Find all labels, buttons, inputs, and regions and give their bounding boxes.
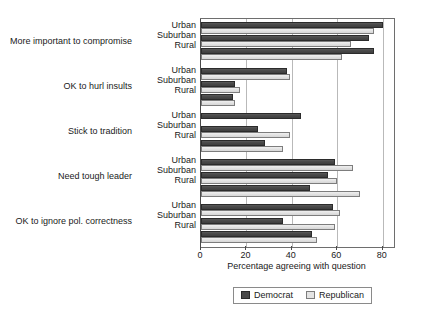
bar-fill	[201, 178, 337, 184]
legend-item-democrat: Democrat	[241, 290, 293, 300]
bar-fill	[201, 28, 374, 34]
bar-republican-more-important-to-compromise-urban	[201, 28, 394, 34]
tick-label-60: 60	[331, 250, 341, 260]
subcategory-label-urban: Urban	[134, 111, 196, 120]
bar-republican-ok-to-hurl-insults-urban	[201, 74, 394, 80]
bar-republican-ok-to-hurl-insults-suburban	[201, 87, 394, 93]
bar-fill	[201, 113, 301, 119]
bar-republican-stick-to-tradition-rural	[201, 146, 394, 152]
group-label-need-tough-leader: Need tough leader	[0, 171, 132, 181]
plot-area	[200, 18, 395, 248]
subcategory-label-urban: Urban	[134, 156, 196, 165]
legend-label-republican: Republican	[319, 290, 364, 300]
group-label-more-important-to-compromise: More important to compromise	[0, 36, 132, 46]
bar-republican-need-tough-leader-suburban	[201, 178, 394, 184]
subcategory-label-suburban: Suburban	[134, 31, 196, 40]
subcategory-label-suburban: Suburban	[134, 211, 196, 220]
bar-fill	[201, 146, 283, 152]
bar-fill	[201, 165, 353, 171]
bar-fill	[201, 210, 340, 216]
subcategory-label-rural: Rural	[134, 86, 196, 95]
bar-republican-stick-to-tradition-suburban	[201, 132, 394, 138]
bar-chart: More important to compromise OK to hurl …	[0, 0, 422, 319]
tick-label-80: 80	[377, 250, 387, 260]
group-label-ok-to-hurl-insults: OK to hurl insults	[0, 81, 132, 91]
group-label-stick-to-tradition: Stick to tradition	[0, 126, 132, 136]
x-axis-title: Percentage agreeing with question	[200, 261, 393, 271]
tick-label-0: 0	[197, 250, 202, 260]
group-label-column: More important to compromise OK to hurl …	[0, 18, 132, 246]
subcategory-label-rural: Rural	[134, 41, 196, 50]
legend-swatch-democrat	[241, 291, 250, 299]
legend-label-democrat: Democrat	[254, 290, 293, 300]
subcategory-label-column: Urban Suburban Rural Urban Suburban Rura…	[134, 18, 196, 246]
x-axis-ticks: 020406080	[200, 246, 393, 262]
subcategory-label-rural: Rural	[134, 176, 196, 185]
subcategory-label-rural: Rural	[134, 131, 196, 140]
bar-republican-ok-to-ignore-pol-correctness-rural	[201, 237, 394, 243]
subcategory-label-urban: Urban	[134, 66, 196, 75]
bar-republican-more-important-to-compromise-suburban	[201, 41, 394, 47]
bar-republican-need-tough-leader-rural	[201, 191, 394, 197]
bar-fill	[201, 41, 351, 47]
legend-item-republican: Republican	[306, 290, 364, 300]
subcategory-label-rural: Rural	[134, 221, 196, 230]
bar-fill	[201, 132, 290, 138]
bar-republican-ok-to-ignore-pol-correctness-urban	[201, 210, 394, 216]
group-label-ok-to-ignore-pol-correctness: OK to ignore pol. correctness	[0, 216, 132, 226]
bar-fill	[201, 191, 360, 197]
bar-fill	[201, 237, 317, 243]
bar-fill	[201, 224, 335, 230]
subcategory-label-urban: Urban	[134, 21, 196, 30]
bar-republican-ok-to-hurl-insults-rural	[201, 100, 394, 106]
bar-republican-ok-to-ignore-pol-correctness-suburban	[201, 224, 394, 230]
chart-legend: Democrat Republican	[233, 287, 372, 304]
subcategory-label-suburban: Suburban	[134, 76, 196, 85]
subcategory-label-urban: Urban	[134, 201, 196, 210]
subcategory-label-suburban: Suburban	[134, 166, 196, 175]
bar-fill	[201, 74, 290, 80]
legend-swatch-republican	[306, 291, 315, 299]
bar-fill	[201, 54, 342, 60]
tick-label-40: 40	[286, 250, 296, 260]
bar-fill	[201, 87, 240, 93]
bar-fill	[201, 100, 235, 106]
bar-democrat-stick-to-tradition-urban	[201, 113, 394, 119]
bar-republican-more-important-to-compromise-rural	[201, 54, 394, 60]
tick-label-20: 20	[240, 250, 250, 260]
bar-republican-need-tough-leader-urban	[201, 165, 394, 171]
subcategory-label-suburban: Suburban	[134, 121, 196, 130]
